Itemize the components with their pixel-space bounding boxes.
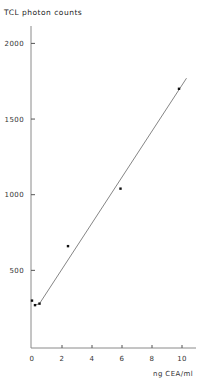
x-tick-label: 10 <box>177 355 187 363</box>
scatter-chart: TCL photon counts 500100015002000 024681… <box>0 0 202 383</box>
data-point <box>119 187 121 189</box>
y-axis-ticks: 500100015002000 <box>5 40 35 275</box>
x-tick-label: 0 <box>30 355 35 363</box>
y-tick-label: 2000 <box>5 40 24 48</box>
x-tick-label: 4 <box>90 355 95 363</box>
y-tick-label: 1500 <box>5 116 24 124</box>
fit-line <box>35 78 187 305</box>
x-tick-label: 6 <box>120 355 125 363</box>
y-tick-label: 1000 <box>5 191 24 199</box>
x-tick-label: 8 <box>150 355 155 363</box>
y-tick-label: 500 <box>9 267 24 275</box>
fit-line-path <box>40 78 187 303</box>
data-point <box>38 302 40 304</box>
data-point <box>178 88 180 90</box>
axes <box>31 26 196 348</box>
data-points <box>31 88 180 307</box>
x-tick-label: 2 <box>60 355 65 363</box>
x-axis-title: ng CEA/ml <box>153 370 193 378</box>
data-point <box>34 304 36 306</box>
data-point <box>67 245 69 247</box>
data-point <box>31 299 33 301</box>
y-axis-title: TCL photon counts <box>3 8 82 17</box>
